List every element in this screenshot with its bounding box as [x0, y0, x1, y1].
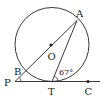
angle-arc-p — [19, 77, 21, 81]
center-point-o — [49, 43, 52, 46]
geometry-diagram: A O B P T C 67° — [0, 0, 107, 99]
label-c: C — [85, 86, 93, 97]
label-o: O — [48, 51, 56, 62]
label-p: P — [4, 77, 11, 88]
angle-label: 67° — [59, 68, 73, 77]
label-t: T — [48, 86, 55, 97]
label-b: B — [14, 66, 21, 77]
label-a: A — [75, 8, 84, 19]
point-c — [86, 80, 89, 83]
